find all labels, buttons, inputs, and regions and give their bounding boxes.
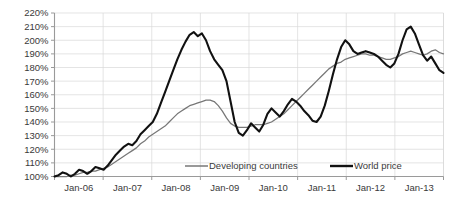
x-axis-tick-label: Jan-12 (356, 182, 385, 193)
x-axis-tick-label: Jan-06 (64, 182, 93, 193)
y-axis-tick-label: 170% (24, 76, 49, 87)
y-axis-tick-label: 160% (24, 89, 49, 100)
y-axis-tick-label: 110% (25, 157, 49, 168)
x-axis-tick-label: Jan-10 (259, 182, 288, 193)
y-axis-tick-label: 200% (24, 35, 49, 46)
x-axis-tick-label: Jan-08 (162, 182, 191, 193)
y-axis-tick-label: 140% (24, 116, 49, 127)
chart-legend: Developing countries World price (185, 160, 402, 171)
x-axis-tick-label: Jan-13 (405, 182, 434, 193)
legend-label-developing-countries: Developing countries (209, 160, 298, 171)
y-axis-tick-label: 220% (24, 7, 49, 18)
y-axis-tick-label: 120% (24, 144, 49, 155)
y-axis-tick-label: 100% (24, 171, 49, 182)
y-axis-tick-label: 130% (24, 130, 49, 141)
legend-label-world-price: World price (354, 160, 402, 171)
y-axis-tick-label: 150% (24, 103, 49, 114)
x-axis-tick-label: Jan-09 (210, 182, 239, 193)
y-axis-tick-label: 180% (24, 62, 49, 73)
y-axis-tick-label: 210% (24, 21, 49, 32)
y-axis-tick-label: 190% (24, 48, 49, 59)
x-axis-tick-label: Jan-07 (113, 182, 142, 193)
line-chart: 100%110%120%130%140%150%160%170%180%190%… (0, 0, 464, 209)
y-axis-labels: 100%110%120%130%140%150%160%170%180%190%… (24, 7, 49, 182)
x-axis-tick-label: Jan-11 (308, 182, 336, 193)
x-axis-labels: Jan-06Jan-07Jan-08Jan-09Jan-10Jan-11Jan-… (64, 182, 433, 193)
chart-container: 100%110%120%130%140%150%160%170%180%190%… (0, 0, 464, 209)
